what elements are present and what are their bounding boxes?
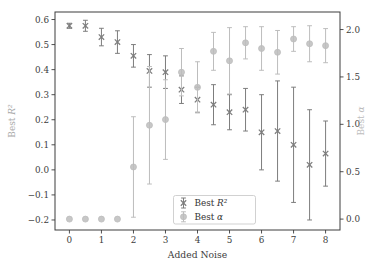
y-tick-label-left: −0.1 — [28, 190, 49, 200]
circle-marker-icon — [178, 69, 184, 75]
y-tick-label-right: 1.5 — [346, 72, 360, 82]
y-tick-label-left: −0.2 — [28, 215, 49, 225]
x-tick-label: 6 — [259, 235, 265, 245]
legend-label: Best α — [195, 212, 224, 222]
circle-marker-icon — [291, 36, 297, 42]
circle-marker-icon — [66, 216, 72, 222]
y-axis-label-right: Best α — [356, 106, 366, 135]
x-tick-label: 4 — [195, 235, 201, 245]
circle-marker-icon — [98, 216, 104, 222]
circle-marker-icon — [275, 49, 281, 55]
y-tick-label-left: 0.5 — [35, 40, 49, 50]
circle-marker-icon — [181, 214, 187, 220]
x-tick-label: 3 — [163, 235, 169, 245]
circle-marker-icon — [323, 43, 329, 49]
errorbar-figure: 0.60.50.40.30.20.10.0−0.1−0.20.00.51.01.… — [0, 0, 385, 265]
x-tick-label: 0 — [67, 235, 73, 245]
series-best-r2 — [67, 20, 329, 220]
circle-marker-icon — [211, 48, 217, 54]
legend-label: Best R² — [195, 198, 228, 208]
series-best-alpha — [66, 26, 328, 222]
legend: Best R²Best α — [174, 196, 256, 225]
y-tick-label-left: 0.2 — [35, 115, 49, 125]
y-tick-label-right: 0.0 — [346, 214, 360, 224]
chart-canvas: 0.60.50.40.30.20.10.0−0.1−0.20.00.51.01.… — [0, 0, 385, 265]
circle-marker-icon — [195, 84, 201, 90]
y-tick-label-left: 0.3 — [35, 90, 49, 100]
x-tick-label: 7 — [291, 235, 297, 245]
y-axis-label-left: Best R² — [7, 104, 17, 138]
x-tick-label: 8 — [323, 235, 329, 245]
y-tick-label-left: 0.6 — [35, 15, 49, 25]
y-tick-label-left: 0.1 — [35, 140, 49, 150]
circle-marker-icon — [130, 164, 136, 170]
y-tick-label-right: 0.5 — [346, 167, 360, 177]
circle-marker-icon — [82, 216, 88, 222]
circle-marker-icon — [259, 45, 265, 51]
x-tick-label: 2 — [131, 235, 137, 245]
circle-marker-icon — [162, 117, 168, 123]
circle-marker-icon — [243, 40, 249, 46]
x-tick-label: 5 — [227, 235, 233, 245]
circle-marker-icon — [227, 58, 233, 64]
circle-marker-icon — [114, 216, 120, 222]
y-tick-label-left: 0.0 — [35, 165, 49, 175]
x-axis-label: Added Noise — [167, 249, 227, 260]
y-tick-label-right: 2.0 — [346, 25, 360, 35]
circle-marker-icon — [307, 41, 313, 47]
y-tick-label-left: 0.4 — [35, 65, 49, 75]
x-tick-label: 1 — [99, 235, 105, 245]
circle-marker-icon — [146, 122, 152, 128]
